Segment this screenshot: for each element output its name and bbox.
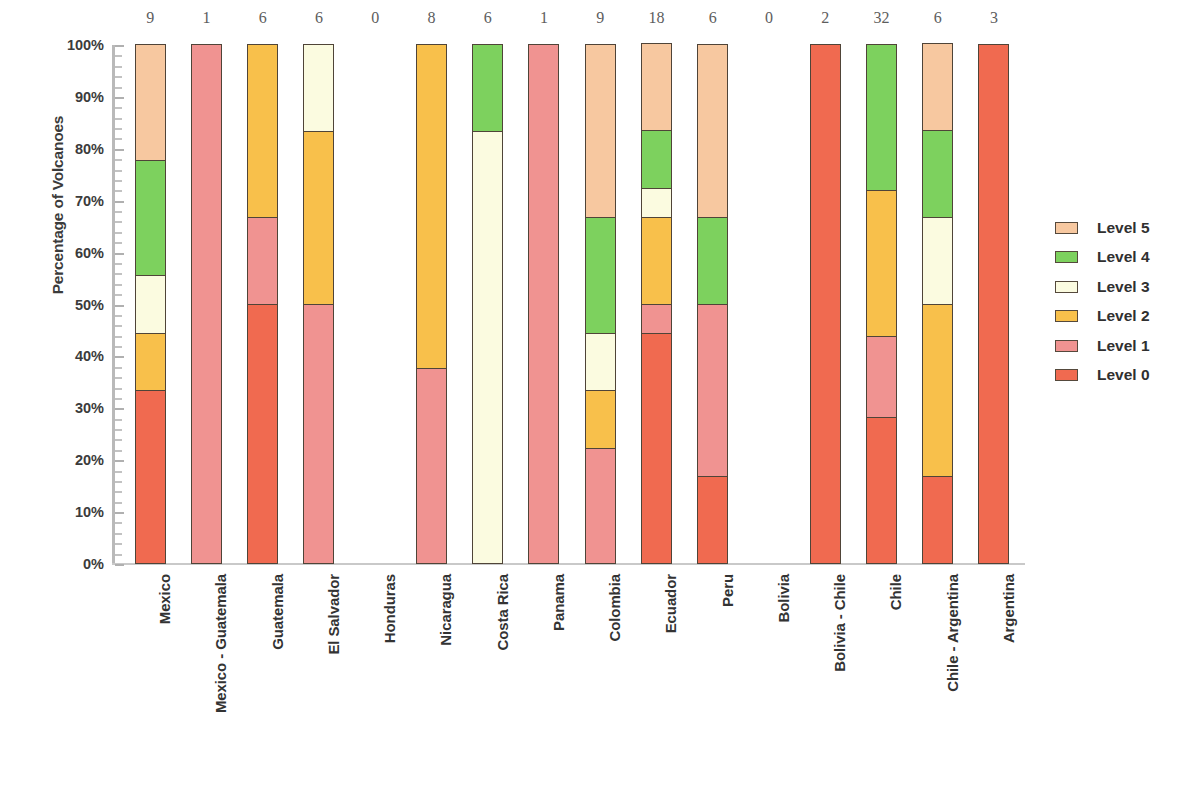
- axis-tick-mark: [115, 346, 122, 348]
- bar-segment-level-2[interactable]: [247, 44, 278, 218]
- bar-column[interactable]: 9Mexico: [122, 45, 178, 564]
- bar-segment-level-2[interactable]: [922, 303, 953, 477]
- bar-segment-level-0[interactable]: [978, 44, 1009, 564]
- bar-segment-level-4[interactable]: [585, 217, 616, 334]
- stacked-bar[interactable]: [303, 45, 334, 564]
- bar-count-label: 9: [122, 9, 178, 27]
- bar-segment-level-1[interactable]: [416, 368, 447, 564]
- bar-segment-level-4[interactable]: [866, 44, 897, 191]
- bar-segment-level-1[interactable]: [528, 44, 559, 564]
- bar-segment-level-5[interactable]: [922, 43, 953, 131]
- bar-column[interactable]: 3Argentina: [966, 45, 1022, 564]
- stacked-bar[interactable]: [416, 45, 447, 564]
- bar-segment-level-1[interactable]: [641, 303, 672, 333]
- bar-segment-level-2[interactable]: [416, 44, 447, 370]
- bar-segment-level-3[interactable]: [472, 130, 503, 564]
- legend-item[interactable]: Level 3: [1055, 272, 1195, 302]
- bar-segment-level-0[interactable]: [641, 332, 672, 564]
- bar-column[interactable]: 1Panama: [516, 45, 572, 564]
- axis-tick-mark: [115, 221, 122, 223]
- bar-segment-level-5[interactable]: [641, 43, 672, 131]
- bar-segment-level-2[interactable]: [641, 216, 672, 304]
- bar-column[interactable]: 6Costa Rica: [460, 45, 516, 564]
- legend-item[interactable]: Level 4: [1055, 243, 1195, 273]
- bar-count-label: 6: [235, 9, 291, 27]
- legend-swatch-icon: [1055, 281, 1078, 293]
- bar-segment-level-5[interactable]: [585, 44, 616, 218]
- bar-segment-level-0[interactable]: [810, 44, 841, 564]
- stacked-bar[interactable]: [922, 45, 953, 564]
- y-tick-label-60: 60%: [42, 245, 104, 261]
- bar-column[interactable]: 6Guatemala: [235, 45, 291, 564]
- stacked-bar[interactable]: [472, 45, 503, 564]
- stacked-bar[interactable]: [866, 45, 897, 564]
- legend-item[interactable]: Level 0: [1055, 361, 1195, 391]
- bar-column[interactable]: 0Bolivia: [741, 45, 797, 564]
- axis-tick-mark: [115, 502, 122, 504]
- bar-segment-level-2[interactable]: [585, 390, 616, 449]
- bar-segment-level-4[interactable]: [922, 130, 953, 218]
- bar-segment-level-3[interactable]: [922, 216, 953, 304]
- bar-segment-level-3[interactable]: [135, 275, 166, 334]
- bar-segment-level-1[interactable]: [303, 303, 334, 564]
- bar-segment-level-2[interactable]: [303, 130, 334, 304]
- bar-segment-level-4[interactable]: [697, 216, 728, 304]
- stacked-bar[interactable]: [360, 45, 391, 564]
- bar-column[interactable]: 6Peru: [685, 45, 741, 564]
- bar-column[interactable]: 8Nicaragua: [403, 45, 459, 564]
- legend-label: Level 2: [1097, 307, 1150, 325]
- bar-segment-level-5[interactable]: [135, 44, 166, 161]
- bar-column[interactable]: 6Chile - Argentina: [910, 45, 966, 564]
- bar-count-label: 9: [572, 9, 628, 27]
- stacked-bar[interactable]: [528, 45, 559, 564]
- stacked-bar[interactable]: [753, 45, 784, 564]
- bar-segment-level-3[interactable]: [585, 332, 616, 391]
- bar-segment-level-4[interactable]: [135, 159, 166, 276]
- x-axis-category-label: Honduras: [381, 574, 398, 643]
- legend-item[interactable]: Level 2: [1055, 302, 1195, 332]
- stacked-bar[interactable]: [641, 45, 672, 564]
- stacked-bar[interactable]: [191, 45, 222, 564]
- bar-segment-level-2[interactable]: [135, 332, 166, 391]
- legend-item[interactable]: Level 1: [1055, 331, 1195, 361]
- bar-column[interactable]: 1Mexico - Guatemala: [178, 45, 234, 564]
- bar-segment-level-2[interactable]: [866, 190, 897, 337]
- bar-segment-level-1[interactable]: [247, 216, 278, 304]
- legend-item[interactable]: Level 5: [1055, 213, 1195, 243]
- bar-segment-level-0[interactable]: [135, 390, 166, 564]
- y-axis-tick-labels: 0%10%20%30%40%50%60%70%80%90%100%: [42, 45, 104, 564]
- bar-column[interactable]: 9Colombia: [572, 45, 628, 564]
- bar-segment-level-1[interactable]: [866, 336, 897, 418]
- legend-swatch-icon: [1055, 340, 1078, 352]
- axis-tick-mark: [115, 471, 122, 473]
- stacked-bar[interactable]: [135, 45, 166, 564]
- bar-column[interactable]: 32Chile: [853, 45, 909, 564]
- bar-segment-level-0[interactable]: [866, 417, 897, 564]
- stacked-bar[interactable]: [810, 45, 841, 564]
- bar-segment-level-4[interactable]: [472, 44, 503, 132]
- bar-segment-level-3[interactable]: [303, 44, 334, 132]
- stacked-bar[interactable]: [247, 45, 278, 564]
- bar-segment-level-3[interactable]: [641, 187, 672, 217]
- bar-column[interactable]: 6El Salvador: [291, 45, 347, 564]
- bar-column[interactable]: 18Ecuador: [628, 45, 684, 564]
- axis-tick-mark: [115, 356, 124, 358]
- bar-segment-level-0[interactable]: [247, 303, 278, 564]
- bar-segment-level-0[interactable]: [922, 476, 953, 564]
- x-axis-category-label: Mexico - Guatemala: [212, 574, 229, 713]
- stacked-bar[interactable]: [585, 45, 616, 564]
- stacked-bar[interactable]: [697, 45, 728, 564]
- axis-tick-mark: [115, 138, 122, 140]
- bar-column[interactable]: 0Honduras: [347, 45, 403, 564]
- bar-segment-level-1[interactable]: [697, 303, 728, 477]
- bar-segment-level-1[interactable]: [585, 447, 616, 564]
- bar-segment-level-0[interactable]: [697, 476, 728, 564]
- bar-segment-level-5[interactable]: [697, 44, 728, 218]
- x-axis-category-label: Nicaragua: [437, 574, 454, 646]
- bar-count-label: 6: [910, 9, 966, 27]
- axis-tick-mark: [115, 76, 122, 78]
- bar-column[interactable]: 2Bolivia - Chile: [797, 45, 853, 564]
- bar-segment-level-1[interactable]: [191, 44, 222, 564]
- bar-segment-level-4[interactable]: [641, 130, 672, 189]
- stacked-bar[interactable]: [978, 45, 1009, 564]
